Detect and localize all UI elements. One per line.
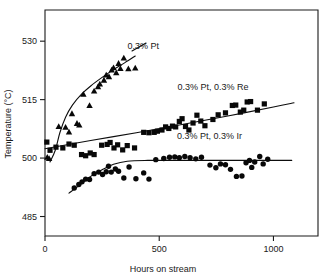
data-point-square [255, 108, 260, 113]
series-circle [69, 154, 292, 193]
data-point-triangle [80, 91, 86, 97]
series-label-1: 0.3% Pt, 0.3% Re [177, 82, 248, 92]
data-point-circle [133, 176, 138, 181]
data-point-circle [187, 155, 192, 160]
data-point-circle [260, 161, 265, 166]
data-point-circle [104, 169, 109, 174]
data-point-circle [207, 162, 212, 167]
data-point-square [72, 143, 77, 148]
y-axis-title: Temperature (°C) [3, 89, 13, 158]
data-point-triangle [62, 124, 68, 130]
data-point-circle [126, 164, 131, 169]
data-point-circle [265, 157, 270, 162]
data-point-square [179, 116, 184, 121]
data-series-layer [44, 55, 294, 194]
data-point-triangle [132, 65, 138, 71]
y-tick-label: 530 [22, 36, 37, 46]
data-point-triangle [86, 102, 92, 108]
data-point-square [155, 129, 160, 134]
data-point-triangle [121, 55, 127, 61]
data-point-square [92, 152, 97, 157]
data-point-circle [228, 167, 233, 172]
data-point-circle [199, 155, 204, 160]
data-point-square [99, 143, 104, 148]
data-point-circle [146, 176, 151, 181]
data-point-circle [161, 156, 166, 161]
data-point-triangle [117, 65, 123, 71]
data-point-square [194, 113, 199, 118]
data-point-circle [72, 185, 77, 190]
data-point-circle [249, 165, 254, 170]
data-point-circle [213, 165, 218, 170]
y-axis-ticks: 485500515530 [22, 36, 45, 221]
series-square [44, 99, 294, 158]
data-point-circle [141, 170, 146, 175]
data-point-triangle [125, 66, 131, 72]
x-tick-label: 500 [152, 244, 167, 254]
data-point-triangle [115, 60, 121, 66]
data-point-square [210, 117, 215, 122]
data-point-circle [116, 169, 121, 174]
data-point-circle [87, 177, 92, 182]
data-point-circle [247, 158, 252, 163]
data-point-circle [182, 154, 187, 159]
series-label-2: 0.3% Pt, 0.3% Ir [177, 131, 242, 141]
temperature-vs-hours-scatter-chart: 485500515530 05001000 Hours on stream Te… [0, 0, 327, 279]
y-tick-label: 515 [22, 95, 37, 105]
data-point-circle [167, 155, 172, 160]
data-point-square [248, 99, 253, 104]
chart-figure: 485500515530 05001000 Hours on stream Te… [0, 0, 327, 279]
y-tick-label: 500 [22, 153, 37, 163]
data-point-circle [252, 159, 257, 164]
x-axis-ticks: 05001000 [42, 236, 283, 254]
data-point-square [198, 118, 203, 123]
data-point-square [262, 101, 267, 106]
data-point-circle [172, 154, 177, 159]
y-tick-label: 485 [22, 212, 37, 222]
data-point-square [223, 110, 228, 115]
data-point-square [173, 124, 178, 129]
data-point-triangle [69, 110, 75, 116]
data-point-square [120, 147, 125, 152]
data-point-square [202, 123, 207, 128]
data-point-circle [121, 175, 126, 180]
data-point-square [60, 145, 65, 150]
x-tick-label: 1000 [263, 244, 283, 254]
data-point-square [47, 148, 52, 153]
data-point-square [66, 141, 71, 146]
data-point-circle [257, 154, 262, 159]
data-point-circle [239, 173, 244, 178]
data-point-square [108, 140, 113, 145]
x-tick-label: 0 [42, 244, 47, 254]
data-point-circle [106, 164, 111, 169]
x-axis-title: Hours on stream [130, 264, 197, 274]
data-point-square [115, 142, 120, 147]
data-point-square [53, 145, 58, 150]
data-point-circle [193, 156, 198, 161]
data-point-square [241, 108, 246, 113]
data-point-square [146, 130, 151, 135]
data-point-circle [153, 157, 158, 162]
data-point-square [44, 139, 49, 144]
data-point-square [83, 153, 88, 158]
data-point-circle [177, 155, 182, 160]
data-point-square [216, 112, 221, 117]
data-point-square [190, 120, 195, 125]
data-point-triangle [56, 123, 62, 129]
data-point-square [125, 143, 130, 148]
data-point-circle [218, 161, 223, 166]
data-point-circle [234, 174, 239, 179]
data-point-square [141, 130, 146, 135]
data-point-square [132, 145, 137, 150]
data-point-circle [91, 171, 96, 176]
series-label-0: 0.3% Pt [127, 41, 159, 51]
data-point-square [233, 102, 238, 107]
data-point-circle [223, 162, 228, 167]
